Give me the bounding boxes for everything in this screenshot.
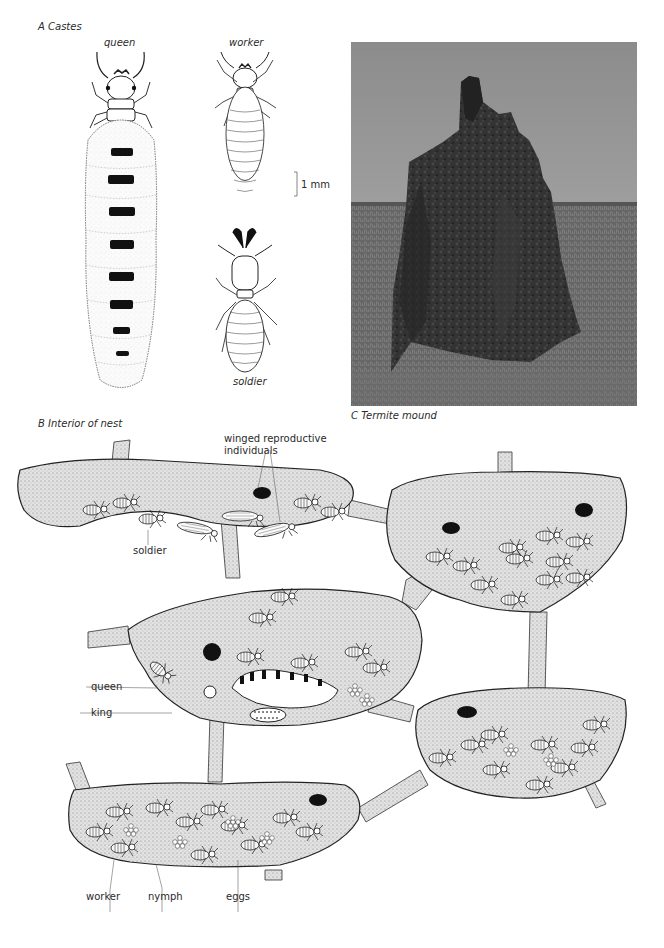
label-worker: worker: [86, 891, 120, 903]
soldier-drawing: [216, 229, 277, 372]
scale-bar: [294, 172, 297, 196]
label-queen: queen: [91, 681, 122, 693]
label-winged-individuals: individuals: [224, 445, 278, 457]
label-winged-reproductive: winged reproductive: [224, 433, 327, 445]
nest-diagram: [18, 440, 627, 912]
label-nymph: nymph: [148, 891, 183, 903]
label-eggs: eggs: [226, 891, 250, 903]
worker-drawing: [215, 52, 276, 192]
chamber-right-lower: [416, 688, 627, 798]
illustration-layer: [0, 0, 664, 948]
chamber-top-left: [18, 459, 354, 527]
label-king: king: [91, 707, 112, 719]
queen-drawing: [85, 52, 156, 388]
label-soldier: soldier: [133, 545, 167, 557]
